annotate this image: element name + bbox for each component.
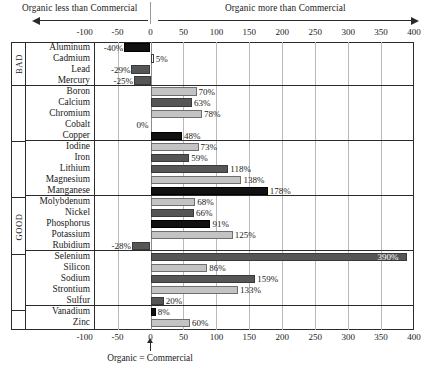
bar-value-label: 48%: [184, 131, 201, 141]
bar: [132, 242, 150, 250]
bar: [151, 132, 183, 140]
axis-tick-label: 350: [374, 332, 388, 342]
axis-tick-label: -100: [76, 27, 93, 37]
header-left-label: Organic less than Commercial: [22, 3, 137, 13]
group-tag-bad: BAD: [11, 42, 26, 86]
category-label: Sulfur: [26, 295, 94, 306]
bar: [151, 319, 191, 327]
bar: [151, 209, 194, 217]
table-row: 66%: [95, 207, 414, 218]
bar: [151, 143, 199, 151]
category-group: BoronCalciumChromiumCobaltCopper: [26, 86, 94, 141]
bar-value-label: 91%: [212, 219, 229, 229]
bar: [151, 98, 193, 106]
bar-value-label: -40%: [99, 43, 123, 53]
group-tag-label: GOOD: [14, 213, 24, 240]
category-group: MolybdenumNickelPhosphorusPotassiumRubid…: [26, 196, 94, 251]
category-label: Copper: [26, 130, 94, 141]
category-group: IodineIronLithiumMagnesiumManganese: [26, 141, 94, 196]
table-row: -40%: [95, 42, 414, 53]
category-label: Rubidium: [26, 240, 94, 251]
axis-tick-label: 400: [407, 332, 421, 342]
bar: [151, 231, 233, 239]
bar: [124, 43, 150, 51]
axis-tick-label: 0: [148, 27, 153, 37]
arrow-right-head-icon: [411, 17, 419, 25]
bar: [151, 54, 154, 62]
category-label: Lead: [26, 64, 94, 75]
axis-tick-label: -50: [112, 332, 124, 342]
table-row: 73%: [95, 141, 414, 152]
axis-tick-label: 50: [179, 332, 188, 342]
group-tag-blank: [11, 256, 26, 311]
axis-tick-label: 400: [407, 27, 421, 37]
bar-value-label: 125%: [235, 230, 256, 240]
group-tag-label: BAD: [14, 54, 24, 74]
axis-tick-label: 100: [210, 332, 224, 342]
axis-tick-label: 150: [243, 27, 257, 37]
arrow-left-icon: [38, 20, 148, 21]
bar: [151, 87, 197, 95]
header-right-label: Organic more than Commercial: [225, 3, 346, 13]
bar-group: -40%5%-29%-25%: [95, 42, 414, 86]
bar-value-label: 138%: [243, 175, 264, 185]
bar: [151, 308, 156, 316]
bar-value-label: 70%: [199, 87, 216, 97]
table-row: 63%: [95, 97, 414, 108]
category-label: Iodine: [26, 141, 94, 152]
bar: [151, 187, 268, 195]
bar-value-label: -29%: [106, 65, 130, 75]
bar-value-label: 390%: [377, 252, 398, 262]
bar-value-label: 20%: [166, 296, 183, 306]
category-label: Chromium: [26, 108, 94, 119]
table-row: 70%: [95, 86, 414, 97]
category-label: Strontium: [26, 284, 94, 295]
bar-group: 390%86%159%133%20%: [95, 251, 414, 306]
bar: [151, 275, 256, 283]
bar: [151, 110, 202, 118]
table-row: 133%: [95, 284, 414, 295]
group-tag-blank: [11, 143, 26, 198]
category-label: Molybdenum: [26, 196, 94, 207]
bar: [151, 165, 229, 173]
axis-tick-label: -100: [76, 332, 93, 342]
bar-value-label: 0%: [127, 120, 149, 130]
bar-value-label: 8%: [158, 307, 170, 317]
group-tag-column: BADGOOD: [11, 42, 26, 330]
bar-value-label: 133%: [240, 285, 261, 295]
table-row: 48%: [95, 130, 414, 141]
category-label: Iron: [26, 152, 94, 163]
header-divider: [150, 2, 151, 24]
category-label: Potassium: [26, 229, 94, 240]
category-label: Sodium: [26, 273, 94, 284]
bar-value-label: 60%: [192, 318, 209, 328]
axis-tick-label: 250: [308, 332, 322, 342]
group-tag-blank: [11, 312, 26, 334]
category-group: SeleniumSiliconSodiumStrontiumSulfur: [26, 251, 94, 306]
table-row: 91%: [95, 218, 414, 229]
category-label: Selenium: [26, 251, 94, 262]
bar-value-label: 73%: [201, 142, 218, 152]
bar-value-label: 66%: [196, 208, 213, 218]
bar: [151, 154, 190, 162]
category-label: Zinc: [26, 317, 94, 328]
bar-value-label: 59%: [191, 153, 208, 163]
bar: [151, 297, 164, 305]
table-row: 86%: [95, 262, 414, 273]
bars-layer: -40%5%-29%-25%70%63%78%0%48%73%59%118%13…: [95, 42, 414, 328]
table-row: 8%: [95, 306, 414, 317]
table-row: 78%: [95, 108, 414, 119]
table-row: 138%: [95, 174, 414, 185]
bar: [151, 286, 239, 294]
chart-container: Organic less than Commercial Organic mor…: [0, 0, 429, 369]
category-label: Aluminum: [26, 42, 94, 53]
bar: [134, 76, 150, 84]
bar-value-label: -28%: [107, 241, 131, 251]
category-label: Calcium: [26, 97, 94, 108]
bar-value-label: 78%: [204, 109, 221, 119]
bar-group: 70%63%78%0%48%: [95, 86, 414, 141]
axis-tick-label: -50: [112, 27, 124, 37]
bar-group: 8%60%: [95, 306, 414, 328]
axis-tick-label: 350: [374, 27, 388, 37]
category-label: Manganese: [26, 185, 94, 196]
